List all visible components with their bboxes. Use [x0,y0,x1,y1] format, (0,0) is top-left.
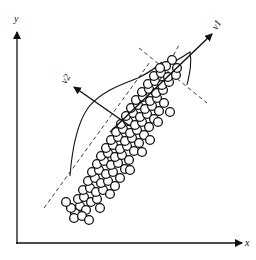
scatter-point [145,123,154,132]
scatter-point [111,182,120,191]
scatter-point [126,166,135,175]
pca-diagram [0,0,256,260]
scatter-point [166,108,175,117]
v2-vector [74,87,130,126]
scatter-point [146,136,155,145]
scatter-point [138,148,147,157]
scatter-point [154,118,163,127]
scatter-point [135,139,144,148]
scatter-point [160,99,169,108]
x-axis-label: x [245,238,249,248]
scatter-point [116,174,125,183]
scatter-point [85,216,94,225]
y-axis-label: y [14,14,18,24]
scatter-point [155,107,164,116]
scatter-point [62,198,71,207]
scatter-point [156,64,165,73]
scatter-point [106,190,115,199]
scatter-point [125,156,134,165]
scatter-point [96,204,105,213]
